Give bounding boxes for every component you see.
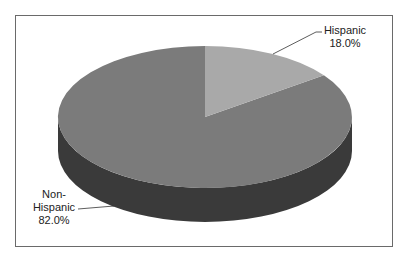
label-non-hispanic-name: Non- <box>30 188 78 201</box>
label-non-hispanic: Non- Hispanic 82.0% <box>30 188 78 227</box>
label-hispanic-name: Hispanic <box>322 24 368 37</box>
label-hispanic: Hispanic 18.0% <box>322 24 368 50</box>
leader-line-hispanic <box>273 32 322 54</box>
label-non-hispanic-pct: 82.0% <box>30 214 78 227</box>
leader-line-non-hispanic <box>78 206 114 209</box>
label-non-hispanic-name2: Hispanic <box>30 201 78 214</box>
label-hispanic-pct: 18.0% <box>322 37 368 50</box>
